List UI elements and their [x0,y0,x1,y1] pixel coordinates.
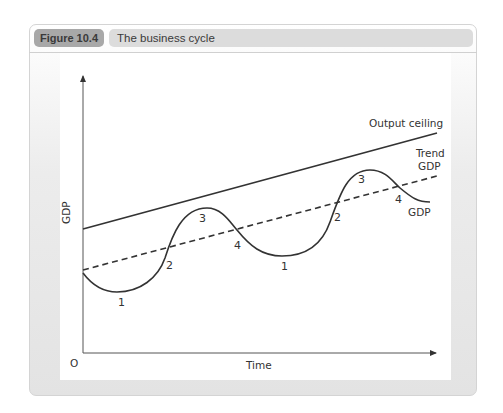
phase-label-1: 1 [118,296,125,309]
trend-gdp-line [83,176,437,270]
output-ceiling-label: Output ceiling [369,117,443,129]
gdp-curve [83,170,430,292]
gdp-label: GDP [408,206,431,218]
phase-label-4: 4 [234,239,241,252]
trend-gdp-label-line2: GDP [418,160,441,172]
trend-gdp-label-line1: Trend [416,147,445,159]
phase-label-1b: 1 [281,260,288,273]
phase-label-2: 2 [166,259,173,272]
x-axis-label: Time [246,359,272,371]
phase-label-2b: 2 [334,211,341,224]
phase-label-3: 3 [199,212,206,225]
phase-label-4b: 4 [395,193,402,206]
origin-label: O [70,357,78,369]
y-axis-label: GDP [60,201,72,224]
phase-label-3b: 3 [358,173,365,186]
output-ceiling-line [83,133,437,229]
